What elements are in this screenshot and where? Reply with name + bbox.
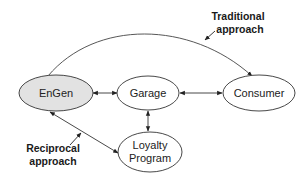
node-garage: Garage: [117, 76, 179, 110]
node-loyalty-label-line1: Loyalty: [133, 139, 168, 151]
node-consumer-label: Consumer: [234, 87, 285, 99]
annotation-traditional: Traditional approach: [211, 10, 264, 35]
edge-traditional-curve: [48, 34, 252, 76]
traditional-pointer: [205, 31, 215, 40]
node-engen-label: EnGen: [39, 87, 73, 99]
reciprocal-label-line2: approach: [29, 155, 76, 167]
node-engen: EnGen: [19, 75, 93, 111]
node-loyalty-label-line2: Program: [129, 152, 171, 164]
node-consumer: Consumer: [223, 75, 295, 111]
reciprocal-label-line1: Reciprocal: [26, 142, 80, 154]
annotation-reciprocal: Reciprocal approach: [26, 142, 80, 167]
traditional-label-line1: Traditional: [211, 10, 264, 22]
diagram-canvas: EnGen Garage Consumer Loyalty Program Tr…: [0, 0, 301, 183]
node-loyalty-program: Loyalty Program: [118, 132, 182, 172]
traditional-label-line2: approach: [216, 23, 263, 35]
node-garage-label: Garage: [130, 87, 167, 99]
